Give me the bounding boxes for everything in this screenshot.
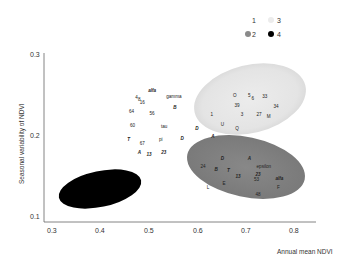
xtick-0.5: 0.5 xyxy=(144,227,154,234)
y-ticks: 0.3 0.2 0.1 xyxy=(30,51,40,220)
xtick-0.3: 0.3 xyxy=(47,227,57,234)
ytick-0.2: 0.2 xyxy=(30,132,40,139)
point-label: epsilon xyxy=(257,164,272,169)
legend-swatch-3 xyxy=(268,17,274,23)
legend-swatch-2 xyxy=(245,31,251,37)
point-label: pi xyxy=(159,137,163,142)
point-label: alfa xyxy=(275,176,283,181)
point-label: F xyxy=(277,185,280,190)
region-group-3 xyxy=(186,52,313,146)
point-label: 16 xyxy=(140,100,146,105)
point-label: alfa xyxy=(148,88,156,93)
point-label: 39 xyxy=(235,103,241,108)
y-axis-label: Seasonal variability of NDVI xyxy=(18,103,26,184)
legend-label-2: 2 xyxy=(252,31,256,38)
scatter-chart: 1 3 2 4 0.3 0.2 0.1 0.3 0.4 0.5 0.6 0.7 … xyxy=(0,0,338,260)
point-label: 13 xyxy=(236,174,242,179)
x-ticks: 0.3 0.4 0.5 0.6 0.7 0.8 xyxy=(47,227,299,234)
point-label: Q xyxy=(235,126,239,131)
point-label: M xyxy=(267,114,271,119)
point-label: 56 xyxy=(150,111,156,116)
point-label: E xyxy=(222,181,225,186)
point-label: 60 xyxy=(130,123,136,128)
point-label: D xyxy=(181,136,185,141)
point-label: 34 xyxy=(273,104,279,109)
point-label: 3 xyxy=(241,112,244,117)
point-label: 23 xyxy=(254,172,261,177)
legend-label-4: 4 xyxy=(277,31,281,38)
point-label: 23 xyxy=(160,150,167,155)
xtick-0.4: 0.4 xyxy=(95,227,105,234)
point-label: L xyxy=(207,185,210,190)
ytick-0.1: 0.1 xyxy=(30,213,40,220)
point-label: 53 xyxy=(254,177,260,182)
region-group-4 xyxy=(55,163,145,216)
xtick-0.7: 0.7 xyxy=(241,227,251,234)
point-label: 24 xyxy=(201,164,207,169)
xtick-0.8: 0.8 xyxy=(289,227,299,234)
point-label: U xyxy=(221,122,224,127)
point-label: D xyxy=(195,126,199,131)
point-label: 67 xyxy=(140,141,146,146)
point-label: A xyxy=(247,156,251,161)
point-label: 6 xyxy=(251,96,254,101)
point-label: 27 xyxy=(256,112,262,117)
point-label: B xyxy=(173,105,177,110)
point-label: T xyxy=(127,137,131,142)
point-label: 64 xyxy=(129,109,135,114)
legend: 1 3 2 4 xyxy=(245,17,281,38)
point-label: O xyxy=(233,93,237,98)
point-label: A xyxy=(137,150,141,155)
point-label: 33 xyxy=(262,94,268,99)
legend-swatch-4 xyxy=(268,31,274,37)
xtick-0.6: 0.6 xyxy=(193,227,203,234)
ytick-0.3: 0.3 xyxy=(30,51,40,58)
point-label: 1 xyxy=(211,112,214,117)
point-label: A xyxy=(210,134,214,139)
point-label: 13 xyxy=(147,152,153,157)
point-label: tau xyxy=(161,124,168,129)
point-label: 48 xyxy=(255,192,261,197)
point-label: gamma xyxy=(166,94,182,99)
legend-label-1: 1 xyxy=(252,17,256,24)
x-axis-label: Annual mean NDVI xyxy=(277,248,333,255)
legend-label-3: 3 xyxy=(277,17,281,24)
